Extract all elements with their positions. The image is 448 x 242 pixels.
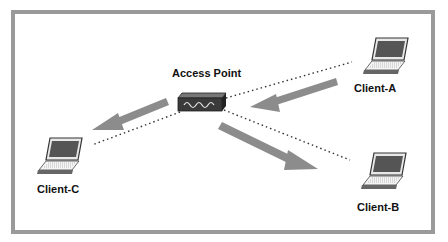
arrow-ap-to-client-b <box>218 122 318 170</box>
client-a-laptop-icon[interactable] <box>363 38 408 74</box>
client-a-label: Client-A <box>354 82 396 94</box>
client-b-label: Client-B <box>357 201 399 213</box>
arrow-client-a-to-ap <box>250 78 338 112</box>
client-c-label: Client-C <box>37 183 79 195</box>
client-c-laptop-icon[interactable] <box>37 138 82 174</box>
client-b-laptop-icon[interactable] <box>361 153 406 189</box>
arrow-ap-to-client-c <box>92 98 169 130</box>
access-point-label: Access Point <box>172 67 241 79</box>
access-point-icon[interactable] <box>178 93 226 111</box>
